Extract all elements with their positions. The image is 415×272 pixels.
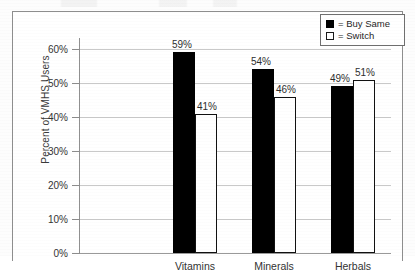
bar-value-label: 51% xyxy=(355,67,375,78)
bar-value-label: 41% xyxy=(197,101,217,112)
bar-group: 54%46% xyxy=(252,32,296,253)
legend-item-switch: = Switch xyxy=(326,30,400,42)
category-label-minerals: Minerals xyxy=(254,260,294,272)
y-axis-tick-label: 50% xyxy=(48,78,68,89)
bar-value-label: 49% xyxy=(330,73,350,84)
y-axis-tick-label: 10% xyxy=(48,214,68,225)
y-axis-tick-mark xyxy=(72,49,80,50)
y-axis-tick-label: 20% xyxy=(48,180,68,191)
bar-value-label: 59% xyxy=(172,39,192,50)
y-axis-tick-mark xyxy=(72,253,80,254)
y-axis-tick-mark xyxy=(72,185,80,186)
bar-buy-same-minerals xyxy=(252,69,274,253)
bar-switch-vitamins xyxy=(195,114,217,253)
chart-frame: Percent of VMHS Users 0%10%20%30%40%50%6… xyxy=(12,11,403,261)
y-axis-line xyxy=(79,38,80,254)
y-axis-tick-label: 60% xyxy=(48,44,68,55)
y-axis-tick-mark xyxy=(72,117,80,118)
bar-buy-same-herbals xyxy=(331,86,353,253)
legend-item-buy-same: = Buy Same xyxy=(326,18,400,30)
y-axis-tick-mark xyxy=(72,83,80,84)
legend-swatch-buy-same-icon xyxy=(326,20,334,28)
bar-switch-herbals xyxy=(353,80,375,253)
legend-swatch-switch-icon xyxy=(326,32,334,40)
bar-value-label: 54% xyxy=(251,56,271,67)
y-axis-tick-label: 0% xyxy=(54,248,68,259)
plot-area: 0%10%20%30%40%50%60% 59%41%54%46%49%51% … xyxy=(79,32,391,254)
chart-legend: = Buy Same = Switch xyxy=(320,14,405,46)
bar-group: 49%51% xyxy=(331,32,375,253)
bar-group: 59%41% xyxy=(173,32,217,253)
category-label-vitamins: Vitamins xyxy=(175,260,215,272)
legend-label-switch: = Switch xyxy=(338,30,374,42)
y-axis-tick-mark xyxy=(72,151,80,152)
y-axis-tick-label: 30% xyxy=(48,146,68,157)
bar-switch-minerals xyxy=(274,97,296,253)
y-axis-tick-mark xyxy=(72,219,80,220)
cut-off-text-artifact xyxy=(0,0,415,7)
category-label-herbals: Herbals xyxy=(335,260,371,272)
y-axis-tick-label: 40% xyxy=(48,112,68,123)
y-axis-title: Percent of VMHS Users xyxy=(40,40,51,180)
bar-value-label: 46% xyxy=(276,84,296,95)
bar-buy-same-vitamins xyxy=(173,52,195,253)
legend-label-buy-same: = Buy Same xyxy=(338,18,390,30)
x-axis-line xyxy=(79,253,391,254)
